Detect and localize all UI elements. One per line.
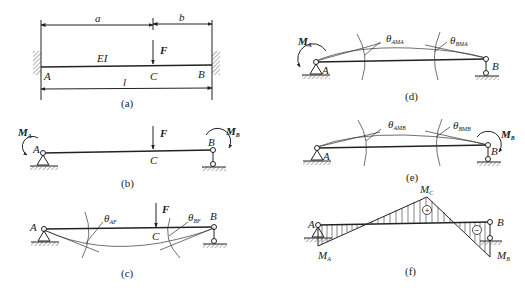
- label-ma: MA: [17, 126, 32, 139]
- roller-hinge: [488, 236, 493, 241]
- ground-hatch: [304, 238, 332, 242]
- ground-hatch: [475, 76, 499, 80]
- label-theta-amb: θAMB: [388, 118, 406, 131]
- label-a-point: A: [322, 150, 330, 162]
- label-c-point: C: [150, 154, 158, 166]
- roller-support-b: [486, 143, 491, 148]
- angle-arc-theta-ama: [357, 34, 365, 80]
- beam-ab: [44, 227, 214, 229]
- fixed-support-right: [212, 51, 220, 75]
- ground-hatch: [30, 166, 58, 170]
- label-b-point: B: [198, 68, 205, 80]
- angle-arc-theta-af: [82, 212, 89, 258]
- beam-ab: [43, 150, 213, 153]
- angle-arc-theta-amb: [358, 120, 366, 166]
- pin-triangle: [37, 155, 49, 165]
- tangent-line-b: [425, 131, 488, 145]
- panel-a: a b l F EI A C B (a): [33, 11, 220, 110]
- roller-support-b: [488, 220, 493, 225]
- deflection-curve: [44, 228, 214, 246]
- caption-f: (f): [405, 265, 416, 278]
- ground-hatch: [477, 162, 501, 166]
- label-mb: MB: [225, 125, 240, 138]
- roller-support-b: [211, 148, 216, 153]
- roller-support-b: [484, 57, 489, 62]
- tangent-line-a: [316, 43, 381, 61]
- label-b-point: B: [208, 136, 215, 148]
- label-ma: MA: [317, 249, 331, 262]
- label-theta-bmb: θBMB: [453, 119, 471, 132]
- label-l: l: [123, 76, 126, 88]
- tangent-line-a: [44, 230, 99, 252]
- roller-hinge: [484, 71, 489, 76]
- leader-line: [436, 127, 450, 137]
- ground-hatch: [203, 244, 227, 248]
- label-ei: EI: [96, 52, 109, 64]
- beam-ab: [316, 59, 486, 62]
- label-theta-bf: θBF: [188, 211, 201, 224]
- label-f: F: [159, 44, 168, 56]
- panel-c: θAF θBF F A C B (c): [29, 203, 227, 280]
- label-f: F: [161, 203, 170, 215]
- label-b: b: [179, 11, 185, 23]
- moment-diagram-outline: [318, 197, 490, 257]
- ground-hatch: [31, 242, 59, 246]
- panel-b: F MA MB A C B (b): [17, 125, 240, 190]
- plus-sign: +: [425, 206, 430, 215]
- minus-sign: −: [475, 226, 480, 235]
- pin-triangle: [310, 64, 322, 74]
- label-a-point: A: [32, 143, 40, 155]
- label-mc: MC: [419, 183, 434, 196]
- label-theta-af: θAF: [104, 212, 117, 225]
- caption-a: (a): [121, 97, 134, 110]
- label-b-point: B: [491, 145, 498, 157]
- caption-d: (d): [405, 90, 418, 103]
- tangent-line-a: [317, 132, 380, 147]
- label-c-point: C: [150, 70, 158, 82]
- pin-triangle: [311, 150, 323, 160]
- label-mb: MB: [496, 249, 510, 262]
- leader-line: [169, 222, 188, 236]
- angle-arc-theta-bf: [168, 218, 180, 258]
- label-theta-bma: θBMA: [450, 34, 468, 47]
- caption-e: (e): [406, 171, 419, 184]
- label-theta-ama: θAMA: [386, 32, 404, 45]
- angle-arc-theta-bma: [434, 32, 440, 80]
- label-a-point: A: [29, 221, 37, 233]
- ground-hatch: [202, 167, 226, 171]
- baseline-beam: [318, 222, 490, 225]
- beam-ab: [317, 145, 488, 148]
- beam-ab: [41, 65, 212, 67]
- roller-hinge: [486, 157, 491, 162]
- pin-triangle: [38, 231, 50, 241]
- roller-hinge: [211, 162, 216, 167]
- panel-f: + − MC A B MA MB (f): [304, 183, 510, 278]
- label-b-point: B: [497, 216, 504, 228]
- label-a: a: [95, 12, 101, 24]
- dimension-l: [41, 88, 212, 89]
- label-c-point: C: [152, 230, 160, 242]
- ground-hatch: [480, 241, 502, 245]
- roller-hinge: [212, 239, 217, 244]
- label-b-point: B: [210, 210, 217, 222]
- label-f: F: [159, 127, 168, 139]
- label-a-point: A: [43, 70, 51, 82]
- angle-arc-theta-bmb: [436, 119, 442, 166]
- panel-d: θAMA θBMA MA A B (d): [297, 32, 499, 103]
- fixed-support-left: [33, 51, 41, 75]
- caption-b: (b): [121, 177, 134, 190]
- beam-diagram-figure: a b l F EI A C B (a) F MA: [0, 0, 525, 294]
- label-ma: MA: [297, 35, 312, 48]
- label-b-point: B: [492, 60, 499, 72]
- caption-c: (c): [121, 267, 134, 280]
- panel-e: θAMB θBMB MB A B (e): [303, 118, 515, 184]
- label-a-point: A: [321, 64, 329, 76]
- label-a-point: A: [307, 218, 315, 230]
- label-mb: MB: [500, 128, 515, 141]
